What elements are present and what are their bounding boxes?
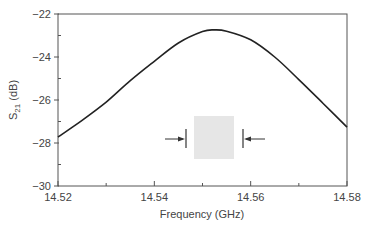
inset-square-annotation [165, 116, 265, 159]
y-tick-label: −26 [32, 94, 51, 106]
y-tick-label: −30 [32, 180, 51, 192]
left-pointing-arrow-icon [244, 137, 251, 142]
right-pointing-arrow-icon [178, 137, 185, 142]
x-tick-label: 14.56 [237, 191, 265, 203]
s21-frequency-chart: 14.5214.5414.5614.58 −22−24−26−28−30 Fre… [0, 0, 371, 235]
y-tick-label: −22 [32, 8, 51, 20]
y-axis-title-main: S [7, 113, 19, 120]
y-axis-title-unit: (dB) [7, 80, 19, 104]
x-tick-label: 14.58 [333, 191, 361, 203]
y-axis-title: S21 (dB) [7, 80, 22, 120]
y-tick-label: −24 [32, 51, 51, 63]
x-tick-label: 14.54 [141, 191, 169, 203]
gray-square [194, 116, 234, 159]
y-axis-ticks: −22−24−26−28−30 [32, 8, 61, 192]
plot-frame [58, 14, 347, 186]
x-axis-ticks: 14.5214.5414.5614.58 [44, 181, 361, 203]
plot-border [58, 14, 347, 186]
x-axis-title: Frequency (GHz) [160, 208, 244, 220]
x-tick-label: 14.52 [44, 191, 72, 203]
y-tick-label: −28 [32, 137, 51, 149]
